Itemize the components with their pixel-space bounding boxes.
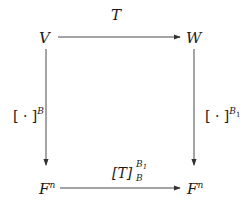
node-w: W [186, 31, 201, 46]
coord-map-bracket: [ · ] [13, 108, 37, 124]
coord-map-bracket: [ · ] [205, 108, 229, 124]
label-t: T [111, 6, 121, 24]
node-fn-right: Fn [187, 182, 203, 197]
node-v: V [39, 31, 50, 46]
left-arrow-label: [ · ]B [13, 109, 44, 123]
node-f-label: F [39, 180, 49, 198]
node-fn-left: Fn [39, 182, 55, 197]
bottom-label-sub: B [136, 174, 143, 183]
node-exponent: n [197, 180, 203, 190]
basis-b1: B [136, 159, 143, 169]
matrix-t: [T] [112, 165, 132, 181]
basis-b1-subscript: 1 [143, 163, 147, 171]
basis-b: B [37, 106, 44, 116]
node-w-label: W [186, 29, 201, 47]
bottom-label-sup: B1 [136, 160, 147, 169]
node-exponent: n [49, 180, 55, 190]
top-arrow-label: T [111, 8, 121, 23]
node-f-label: F [187, 180, 197, 198]
bottom-arrow-label: [T] [112, 166, 132, 180]
right-arrow-label: [ · ]B1 [205, 109, 240, 123]
basis-b1-subscript: 1 [236, 111, 240, 119]
basis-b: B [136, 173, 143, 183]
node-v-label: V [39, 29, 50, 47]
basis-b1: B [229, 106, 236, 116]
